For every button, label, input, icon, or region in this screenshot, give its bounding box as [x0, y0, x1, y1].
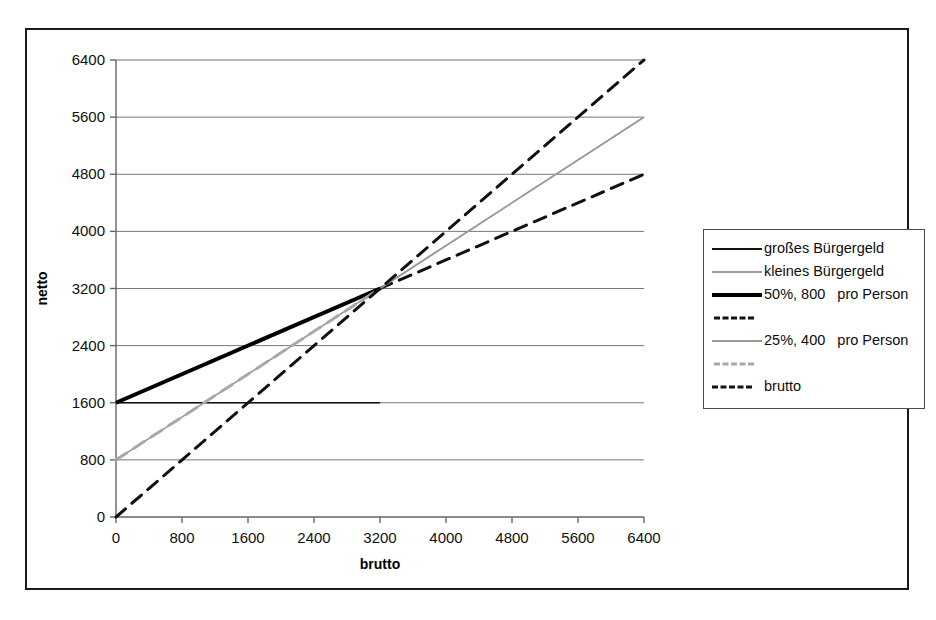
x-tick-label: 6400 — [627, 529, 660, 546]
legend-item: kleines Bürgergeld — [704, 260, 924, 283]
x-tick-label: 0 — [112, 529, 120, 546]
y-tick-label: 5600 — [72, 108, 105, 125]
legend-swatch-icon — [712, 265, 762, 279]
legend-label: 50%, 800 pro Person — [764, 287, 908, 302]
x-tick-label: 4000 — [429, 529, 462, 546]
y-tick-label: 2400 — [72, 337, 105, 354]
x-axis-title: brutto — [360, 556, 400, 572]
y-axis-title: netto — [34, 271, 50, 305]
y-tick-label: 4800 — [72, 165, 105, 182]
y-tick-label: 0 — [97, 508, 105, 525]
series-line — [380, 117, 644, 288]
legend-swatch-icon — [712, 288, 762, 302]
legend-rows: großes Bürgergeldkleines Bürgergeld50%, … — [704, 230, 924, 408]
y-tick-label: 4000 — [72, 222, 105, 239]
legend-item: 25%, 400 pro Person — [704, 329, 924, 352]
legend-item — [704, 306, 924, 329]
x-tick-label: 5600 — [561, 529, 594, 546]
legend-item: 50%, 800 pro Person — [704, 283, 924, 306]
chart-legend: großes Bürgergeldkleines Bürgergeld50%, … — [703, 229, 925, 409]
x-tick-label: 2400 — [297, 529, 330, 546]
x-tick-label: 4800 — [495, 529, 528, 546]
legend-label: 25%, 400 pro Person — [764, 333, 908, 348]
legend-label: kleines Bürgergeld — [764, 264, 884, 279]
chart-screenshot: 0800160024003200400048005600640008001600… — [0, 0, 936, 620]
legend-swatch-icon — [712, 242, 762, 256]
legend-item: großes Bürgergeld — [704, 237, 924, 260]
chart-frame: 0800160024003200400048005600640008001600… — [25, 28, 909, 590]
legend-label: brutto — [764, 379, 801, 394]
y-tick-label: 800 — [80, 451, 105, 468]
legend-swatch-icon — [712, 334, 762, 348]
x-tick-label: 3200 — [363, 529, 396, 546]
y-tick-label: 1600 — [72, 394, 105, 411]
y-tick-label: 3200 — [72, 280, 105, 297]
legend-item — [704, 352, 924, 375]
legend-swatch-icon — [712, 311, 762, 325]
x-tick-label: 1600 — [231, 529, 264, 546]
legend-item: brutto — [704, 375, 924, 398]
legend-label: großes Bürgergeld — [764, 241, 884, 256]
legend-swatch-icon — [712, 357, 762, 371]
y-tick-label: 6400 — [72, 51, 105, 68]
x-tick-label: 800 — [169, 529, 194, 546]
legend-swatch-icon — [712, 380, 762, 394]
